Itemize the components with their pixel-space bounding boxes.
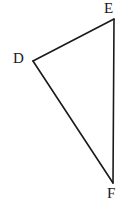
vertex-label-e: E: [104, 1, 113, 16]
figure-background: [0, 0, 128, 204]
vertex-label-f: F: [107, 186, 115, 201]
edge-ef: [113, 19, 114, 183]
geometry-figure: D E F: [0, 0, 128, 204]
vertex-label-d: D: [13, 51, 24, 66]
triangle-diagram: [0, 0, 128, 204]
